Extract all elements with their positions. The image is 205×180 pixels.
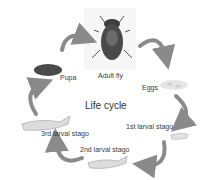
arrow-adult-to-eggs — [140, 40, 166, 58]
label-3rd-larval: 3rd larval stago — [41, 130, 89, 137]
label-1st-larval: 1st larval stago — [126, 123, 173, 130]
arrow-larva1-to-larva2 — [144, 142, 165, 165]
label-eggs: Eggs — [142, 84, 158, 91]
larva-icon — [22, 116, 70, 130]
arrow-larva3-to-pupa — [30, 84, 42, 114]
arrow-larva2-to-larva3 — [56, 140, 82, 161]
arrow-eggs-to-larva1 — [176, 96, 186, 124]
life-cycle-graphics — [0, 0, 205, 180]
larva-icon — [88, 156, 127, 168]
label-adult-fly: Adult fly — [98, 72, 123, 79]
fly-icon — [84, 8, 136, 70]
label-pupa: Pupa — [60, 74, 76, 81]
arrow-pupa-to-adult — [62, 36, 86, 50]
larva-icon — [171, 133, 188, 139]
label-2nd-larval: 2nd larval stago — [80, 146, 129, 153]
diagram-title: Life cycle — [85, 100, 127, 111]
eggs-icon — [160, 80, 188, 90]
pupa-icon — [34, 64, 62, 76]
